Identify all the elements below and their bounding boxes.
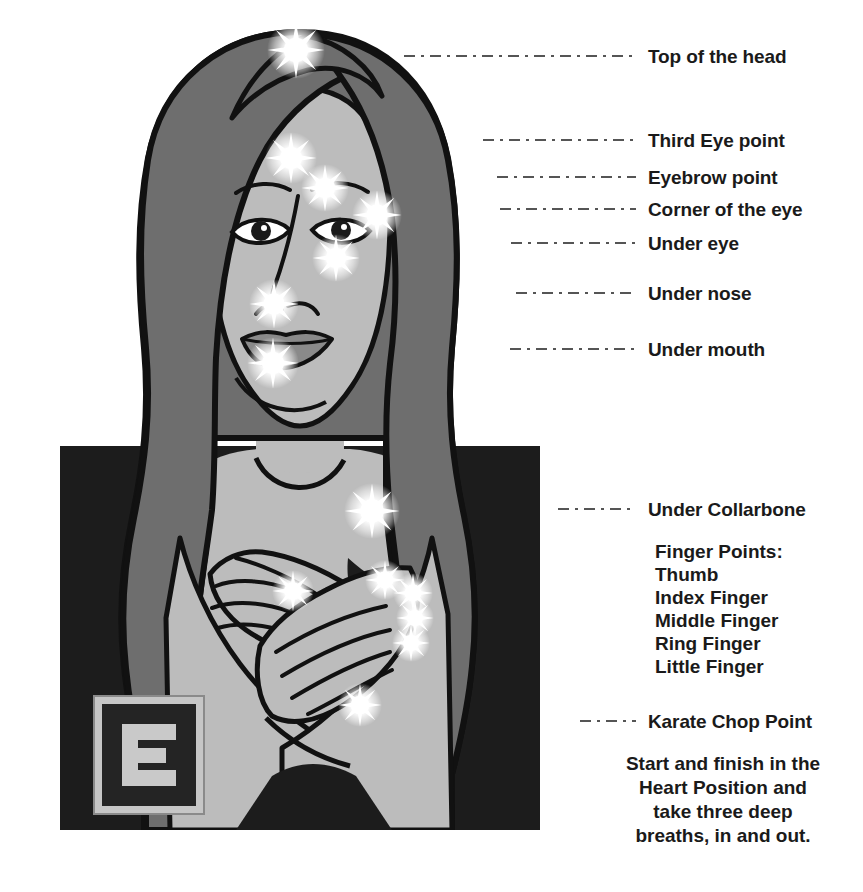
woman-illustration — [60, 18, 540, 830]
eft-tapping-points-diagram: Top of the headThird Eye pointEyebrow po… — [0, 0, 863, 892]
sparkle-eyebrow-icon — [301, 164, 349, 212]
closing-note-line-3: take three deep — [588, 800, 858, 824]
sparkle-karate-chop-icon — [338, 683, 382, 727]
label-under-mouth: Under mouth — [648, 339, 765, 361]
closing-instruction-note: Start and finish in the Heart Position a… — [588, 752, 858, 848]
finger-point-thumb: Thumb — [655, 563, 783, 586]
finger-point-middle: Middle Finger — [655, 609, 783, 632]
label-under-collarbone: Under Collarbone — [648, 499, 806, 521]
label-top-of-head: Top of the head — [648, 46, 787, 68]
finger-point-ring: Ring Finger — [655, 632, 783, 655]
leader-line-top-of-head — [404, 55, 636, 57]
logo-badge — [94, 696, 204, 814]
leader-line-under-nose — [516, 292, 636, 294]
sparkle-collarbone-icon — [344, 483, 400, 539]
leader-line-eyebrow-point — [497, 176, 636, 178]
sparkle-top-of-head-icon — [267, 21, 325, 79]
finger-points-block: Finger Points: Thumb Index Finger Middle… — [655, 540, 783, 678]
finger-point-little: Little Finger — [655, 655, 783, 678]
label-under-eye: Under eye — [648, 233, 739, 255]
finger-point-index: Index Finger — [655, 586, 783, 609]
sparkle-under-eye-icon — [312, 234, 360, 282]
sparkle-little-icon — [392, 624, 430, 662]
leader-line-karate-chop — [580, 720, 636, 722]
leader-line-third-eye-point — [483, 139, 636, 141]
sparkle-corner-eye-icon — [352, 190, 402, 240]
closing-note-line-2: Heart Position and — [588, 776, 858, 800]
leader-line-under-mouth — [510, 348, 636, 350]
leader-line-under-eye — [511, 242, 636, 244]
closing-note-line-1: Start and finish in the — [588, 752, 858, 776]
leader-line-corner-of-eye — [500, 208, 636, 210]
label-under-nose: Under nose — [648, 283, 752, 305]
label-karate-chop: Karate Chop Point — [648, 711, 812, 733]
sparkle-under-mouth-icon — [247, 337, 299, 389]
leader-line-under-collarbone — [558, 508, 636, 510]
sparkle-under-nose-icon — [249, 279, 299, 329]
label-corner-of-eye: Corner of the eye — [648, 199, 803, 221]
finger-points-heading: Finger Points: — [655, 540, 783, 563]
sparkle-thumb-icon — [272, 570, 314, 612]
closing-note-line-4: breaths, in and out. — [588, 824, 858, 848]
label-eyebrow-point: Eyebrow point — [648, 167, 778, 189]
label-third-eye-point: Third Eye point — [648, 130, 785, 152]
